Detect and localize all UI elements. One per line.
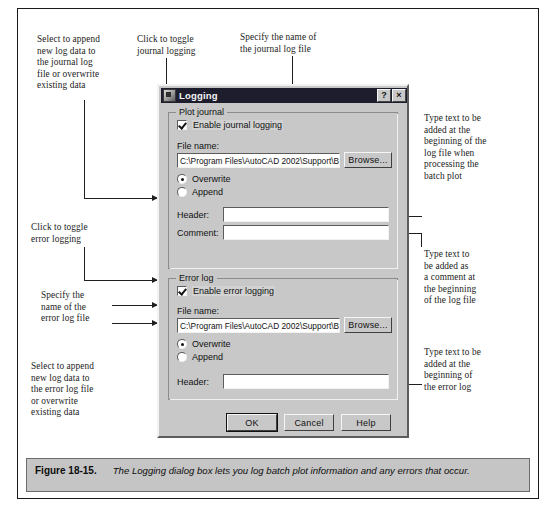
annotation-journal-name: Specify the name of the journal log file — [240, 32, 352, 55]
annotation-error-name: Specify the name of the error log file — [41, 290, 125, 325]
journal-browse-button[interactable]: Browse... — [344, 152, 392, 168]
journal-append-label: Append — [192, 187, 223, 197]
radio-icon[interactable] — [177, 187, 187, 197]
help-icon-button[interactable]: ? — [377, 89, 391, 102]
error-overwrite-radio[interactable]: Overwrite — [177, 339, 231, 349]
leader-journal-comment-v — [421, 233, 422, 247]
annotation-journal-comment: Type text to be added as a comment at th… — [424, 249, 520, 307]
enable-journal-logging-checkbox[interactable]: Enable journal logging — [177, 120, 283, 130]
help-button[interactable]: Help — [341, 414, 391, 431]
error-append-label: Append — [192, 352, 223, 362]
annotation-toggle-error: Click to toggle error logging — [31, 222, 127, 245]
annotation-append-error: Select to append new log data to the err… — [31, 361, 133, 419]
figure-number: Figure 18-15. — [35, 465, 97, 476]
annotation-error-header: Type text to be added at the beginning o… — [424, 347, 522, 393]
error-header-label: Header: — [177, 377, 209, 387]
plot-journal-group-label: Plot journal — [176, 107, 227, 117]
checkbox-icon[interactable] — [177, 286, 187, 296]
cancel-button[interactable]: Cancel — [284, 414, 334, 431]
annotation-journal-header: Type text to be added at the beginning o… — [424, 113, 528, 183]
error-file-name-label: File name: — [177, 306, 219, 316]
journal-file-name-input[interactable]: C:\Program Files\AutoCAD 2002\Support\Ba… — [177, 153, 340, 168]
enable-error-logging-checkbox[interactable]: Enable error logging — [177, 286, 275, 296]
journal-overwrite-label: Overwrite — [192, 174, 231, 184]
journal-comment-input[interactable] — [223, 225, 389, 240]
dialog-title: Logging — [179, 90, 376, 101]
journal-append-radio[interactable]: Append — [177, 187, 223, 197]
annotation-append-journal: Select to append new log data to the jou… — [37, 34, 133, 92]
journal-comment-label: Comment: — [177, 228, 219, 238]
leader-append-journal-h — [84, 198, 157, 199]
radio-icon[interactable] — [177, 352, 187, 362]
leader-append-journal-v — [84, 100, 85, 198]
error-file-name-input[interactable]: C:\Program Files\AutoCAD 2002\Support\Ba… — [177, 318, 340, 333]
journal-file-name-label: File name: — [177, 141, 219, 151]
error-append-radio[interactable]: Append — [177, 352, 223, 362]
journal-header-input[interactable] — [223, 207, 389, 222]
leader-toggle-error-h — [84, 280, 157, 281]
leader-append-error-h — [112, 323, 157, 324]
figure-caption: Figure 18-15. The Logging dialog box let… — [26, 458, 530, 492]
error-log-group-label: Error log — [176, 273, 217, 283]
checkbox-icon[interactable] — [177, 120, 187, 130]
figure-page: Select to append new log data to the jou… — [0, 0, 554, 512]
radio-icon[interactable] — [177, 339, 187, 349]
radio-icon[interactable] — [177, 174, 187, 184]
close-icon-button[interactable]: × — [392, 89, 406, 102]
annotation-toggle-journal: Click to toggle journal logging — [137, 34, 229, 57]
figure-caption-text: The Logging dialog box lets you log batc… — [113, 465, 470, 478]
logging-app-icon — [163, 89, 176, 102]
error-header-input[interactable] — [223, 374, 389, 389]
leader-error-name-h — [112, 305, 157, 306]
ok-button[interactable]: OK — [227, 414, 277, 431]
dialog-titlebar[interactable]: Logging ? × — [161, 88, 407, 103]
error-overwrite-label: Overwrite — [192, 339, 231, 349]
leader-toggle-error-v — [84, 247, 85, 280]
journal-header-label: Header: — [177, 210, 209, 220]
enable-error-logging-label: Enable error logging — [192, 286, 275, 296]
error-browse-button[interactable]: Browse... — [344, 317, 392, 333]
logging-dialog: Logging ? × Plot journal Enable journal … — [157, 84, 409, 438]
journal-overwrite-radio[interactable]: Overwrite — [177, 174, 231, 184]
enable-journal-logging-label: Enable journal logging — [192, 120, 283, 130]
